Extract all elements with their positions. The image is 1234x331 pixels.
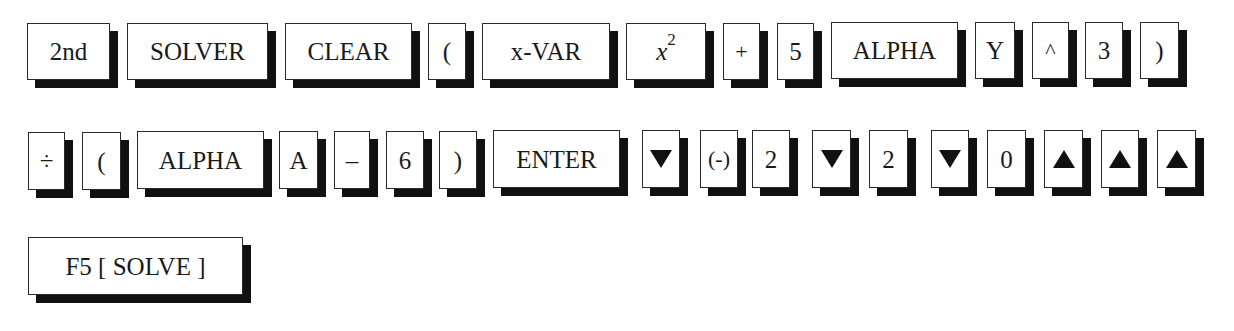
key-label: – bbox=[346, 148, 359, 173]
key-clear[interactable]: CLEAR bbox=[285, 23, 412, 80]
key-x-var[interactable]: x-VAR bbox=[482, 23, 610, 80]
up-arrow-icon bbox=[1109, 150, 1131, 168]
key-label: ALPHA bbox=[159, 148, 242, 173]
up-arrow-icon bbox=[1166, 150, 1188, 168]
key-label: 2nd bbox=[50, 39, 88, 64]
key-divide[interactable]: ÷ bbox=[28, 132, 65, 190]
key-down-arrow[interactable] bbox=[931, 130, 969, 188]
key-x-squared[interactable]: x2 bbox=[626, 23, 706, 80]
key-label: ^ bbox=[1045, 40, 1055, 62]
key-label: Y bbox=[986, 38, 1004, 63]
key-alpha[interactable]: ALPHA bbox=[137, 131, 264, 189]
key-up-arrow[interactable] bbox=[1044, 130, 1083, 188]
key-label: ( bbox=[97, 149, 105, 174]
key-solver[interactable]: SOLVER bbox=[127, 23, 268, 80]
key-label: 3 bbox=[1098, 38, 1111, 63]
key-label-base: x bbox=[656, 38, 667, 65]
key-label: 2 bbox=[765, 147, 778, 172]
key-label: 6 bbox=[399, 148, 412, 173]
key-up-arrow[interactable] bbox=[1101, 130, 1139, 188]
key-2nd[interactable]: 2nd bbox=[27, 23, 110, 80]
key-down-arrow[interactable] bbox=[642, 130, 680, 188]
down-arrow-icon bbox=[821, 150, 843, 168]
key-label: A bbox=[289, 148, 307, 173]
key-negative[interactable]: (-) bbox=[700, 130, 738, 188]
key-minus[interactable]: – bbox=[334, 131, 370, 189]
key-label: ÷ bbox=[40, 149, 54, 174]
key-label: 2 bbox=[882, 147, 895, 172]
key-caret[interactable]: ^ bbox=[1032, 22, 1069, 79]
key-2[interactable]: 2 bbox=[752, 130, 790, 188]
key-close-paren[interactable]: ) bbox=[1140, 22, 1179, 79]
key-label: ) bbox=[1155, 38, 1163, 63]
key-label: ( bbox=[443, 39, 451, 64]
down-arrow-icon bbox=[939, 150, 961, 168]
key-f5-solve[interactable]: F5 [ SOLVE ] bbox=[28, 237, 243, 295]
key-5[interactable]: 5 bbox=[777, 23, 814, 80]
key-y[interactable]: Y bbox=[975, 22, 1015, 79]
up-arrow-icon bbox=[1053, 150, 1075, 168]
key-open-paren[interactable]: ( bbox=[428, 23, 466, 80]
key-down-arrow[interactable] bbox=[812, 130, 851, 188]
down-arrow-icon bbox=[650, 150, 672, 168]
key-alpha[interactable]: ALPHA bbox=[831, 22, 958, 79]
key-label: 5 bbox=[789, 39, 802, 64]
key-enter[interactable]: ENTER bbox=[493, 130, 620, 188]
key-label: SOLVER bbox=[150, 39, 245, 64]
key-label: ) bbox=[454, 148, 462, 173]
key-3[interactable]: 3 bbox=[1085, 22, 1123, 79]
key-6[interactable]: 6 bbox=[386, 131, 424, 189]
key-label: CLEAR bbox=[308, 39, 390, 64]
key-label: ENTER bbox=[516, 147, 597, 172]
key-label: + bbox=[735, 41, 747, 63]
key-open-paren[interactable]: ( bbox=[82, 132, 121, 190]
key-label-superscript: 2 bbox=[667, 30, 676, 49]
key-label: (-) bbox=[708, 148, 730, 170]
key-label: x-VAR bbox=[511, 39, 581, 64]
key-label: ALPHA bbox=[853, 38, 936, 63]
key-up-arrow[interactable] bbox=[1157, 130, 1196, 188]
key-label: x2 bbox=[656, 39, 676, 64]
key-label: 0 bbox=[1000, 147, 1013, 172]
key-2[interactable]: 2 bbox=[869, 130, 908, 188]
key-plus[interactable]: + bbox=[723, 23, 760, 80]
key-label: F5 [ SOLVE ] bbox=[65, 254, 205, 279]
key-close-paren[interactable]: ) bbox=[439, 131, 477, 189]
key-a[interactable]: A bbox=[279, 131, 318, 189]
key-0[interactable]: 0 bbox=[987, 130, 1026, 188]
